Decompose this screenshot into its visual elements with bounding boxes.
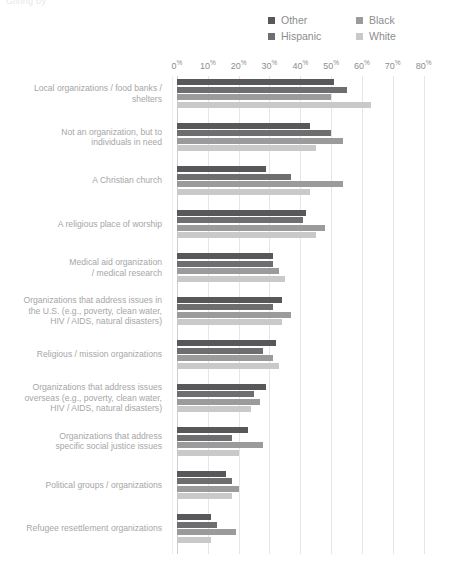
bar-white <box>177 232 316 238</box>
bar-group <box>177 79 439 108</box>
bar-hispanic <box>177 348 263 354</box>
legend-label: White <box>369 31 396 42</box>
bar-hispanic <box>177 304 273 310</box>
bar-group <box>177 340 439 369</box>
bar-group <box>177 514 439 543</box>
bar-black <box>177 442 263 448</box>
category-label: Political groups / organizations <box>0 480 162 491</box>
bar-hispanic <box>177 87 347 93</box>
bar-other <box>177 297 282 303</box>
category-label-line: Not an organization, but to <box>0 127 162 138</box>
bar-white <box>177 145 316 151</box>
bar-black <box>177 268 279 274</box>
category-label: Refugee resettlement organizations <box>0 523 162 534</box>
chart-legend: OtherBlackHispanicWhite <box>268 15 450 47</box>
category-label-line: / medical research <box>0 268 162 279</box>
bar-group <box>177 384 439 413</box>
category-label-line: HIV / AIDS, natural disasters) <box>0 316 162 327</box>
legend-swatch-icon <box>356 17 363 24</box>
category-label: Not an organization, but toindividuals i… <box>0 127 162 148</box>
legend-label: Hispanic <box>281 31 321 42</box>
category-label: A Christian church <box>0 175 162 186</box>
legend-item-black[interactable]: Black <box>356 15 444 26</box>
category-label-line: Religious / mission organizations <box>0 349 162 360</box>
legend-swatch-icon <box>268 17 275 24</box>
category-label-line: A religious place of worship <box>0 219 162 230</box>
category-label-line: HIV / AIDS, natural disasters) <box>0 403 162 414</box>
clipped-header: Giving by <box>0 0 455 6</box>
bar-other <box>177 427 248 433</box>
bar-hispanic <box>177 261 273 267</box>
legend-item-white[interactable]: White <box>356 31 444 42</box>
bar-other <box>177 123 310 129</box>
category-label: Organizations that addressspecific socia… <box>0 431 162 452</box>
bar-black <box>177 94 331 100</box>
bar-group <box>177 210 439 239</box>
x-tick-80: 80% <box>416 57 432 72</box>
x-tick-0: 0% <box>172 57 183 72</box>
x-tick-20: 20% <box>231 57 247 72</box>
category-label-line: the U.S. (e.g., poverty, clean water, <box>0 306 162 317</box>
category-label-line: individuals in need <box>0 137 162 148</box>
category-label: Organizations that address issues inthe … <box>0 295 162 327</box>
bar-black <box>177 529 236 535</box>
category-label: Medical aid organization/ medical resear… <box>0 257 162 278</box>
bar-hispanic <box>177 522 217 528</box>
bar-other <box>177 514 211 520</box>
x-tick-30: 30% <box>262 57 278 72</box>
bar-white <box>177 363 279 369</box>
bar-other <box>177 166 266 172</box>
bar-hispanic <box>177 174 291 180</box>
bar-white <box>177 493 232 499</box>
bar-group <box>177 123 439 152</box>
bar-chart: Giving by OtherBlackHispanicWhite 0%10%2… <box>0 0 455 568</box>
x-tick-70: 70% <box>385 57 401 72</box>
legend-swatch-icon <box>356 33 363 40</box>
bar-black <box>177 399 260 405</box>
bar-white <box>177 189 310 195</box>
bar-groups <box>177 76 439 554</box>
bar-hispanic <box>177 391 254 397</box>
category-label-line: Political groups / organizations <box>0 480 162 491</box>
bar-white <box>177 102 371 108</box>
x-tick-40: 40% <box>292 57 308 72</box>
legend-swatch-icon <box>268 33 275 40</box>
legend-item-hispanic[interactable]: Hispanic <box>268 31 356 42</box>
bar-other <box>177 253 273 259</box>
bar-other <box>177 384 266 390</box>
bar-group <box>177 297 439 326</box>
bar-group <box>177 166 439 195</box>
bar-white <box>177 276 285 282</box>
category-label: A religious place of worship <box>0 219 162 230</box>
bar-other <box>177 210 306 216</box>
bar-other <box>177 471 226 477</box>
bar-other <box>177 79 334 85</box>
x-tick-10: 10% <box>200 57 216 72</box>
x-axis-tick-labels: 0%10%20%30%40%50%60%70%80% <box>177 57 439 70</box>
category-label: Religious / mission organizations <box>0 349 162 360</box>
category-label-line: Organizations that address issues in <box>0 295 162 306</box>
bar-black <box>177 312 291 318</box>
category-label-line: Refugee resettlement organizations <box>0 523 162 534</box>
bar-hispanic <box>177 435 232 441</box>
bar-other <box>177 340 276 346</box>
category-label: Organizations that address issuesoversea… <box>0 382 162 414</box>
legend-item-other[interactable]: Other <box>268 15 356 26</box>
bar-white <box>177 319 282 325</box>
category-label-line: A Christian church <box>0 175 162 186</box>
category-label-line: Medical aid organization <box>0 257 162 268</box>
bar-group <box>177 427 439 456</box>
legend-label: Black <box>369 15 395 26</box>
legend-label: Other <box>281 15 307 26</box>
bar-group <box>177 471 439 500</box>
plot-area <box>177 76 439 554</box>
category-label-line: Organizations that address <box>0 431 162 442</box>
category-label: Local organizations / food banks /shelte… <box>0 83 162 104</box>
category-label-line: shelters <box>0 94 162 105</box>
bar-black <box>177 138 343 144</box>
bar-black <box>177 225 325 231</box>
category-label-line: Local organizations / food banks / <box>0 83 162 94</box>
bar-white <box>177 450 239 456</box>
clipped-header-text: Giving by <box>6 0 455 6</box>
category-label-line: overseas (e.g., poverty, clean water, <box>0 393 162 404</box>
